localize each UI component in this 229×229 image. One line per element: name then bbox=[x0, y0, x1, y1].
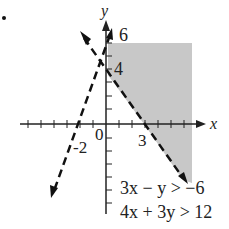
y-tick-label-6: 6 bbox=[119, 25, 128, 45]
boundary-line-3x-minus-y bbox=[55, 35, 110, 188]
inequality-1: 3x − y > −6 bbox=[120, 178, 204, 199]
x-tick-label-3: 3 bbox=[138, 131, 147, 150]
y-axis-label: y bbox=[99, 2, 109, 20]
arrowhead-icon bbox=[50, 185, 58, 198]
x-axis-arrow-icon bbox=[196, 120, 206, 128]
origin-label: 0 bbox=[95, 125, 104, 144]
x-axis-label: x bbox=[209, 115, 217, 132]
x-tick-label-neg2: -2 bbox=[73, 138, 87, 157]
y-tick-label-4: 4 bbox=[114, 59, 123, 79]
y-axis-arrow-icon bbox=[102, 20, 110, 31]
arrowhead-icon bbox=[80, 31, 91, 45]
inequality-2: 4x + 3y > 12 bbox=[120, 202, 212, 223]
